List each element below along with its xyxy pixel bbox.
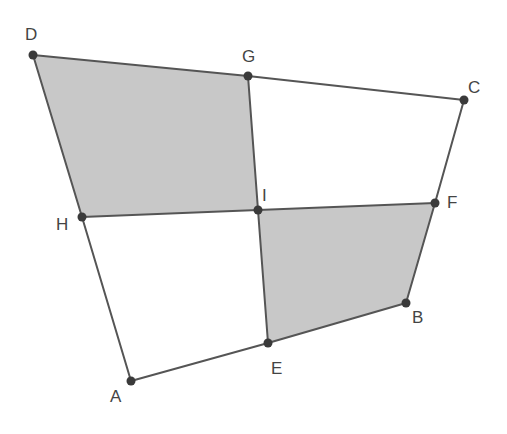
shaded-region-dgih — [33, 55, 258, 217]
label-b: B — [412, 308, 423, 327]
label-d: D — [25, 25, 37, 44]
geometry-diagram: ABCDEFGHI — [0, 0, 507, 434]
label-e: E — [271, 359, 282, 378]
label-f: F — [447, 193, 457, 212]
point-a — [127, 377, 136, 386]
segment-cg — [248, 76, 464, 100]
segment-ae — [131, 343, 268, 381]
point-g — [244, 72, 253, 81]
label-h: H — [56, 215, 68, 234]
segment-fc — [435, 100, 464, 203]
point-d — [29, 51, 38, 60]
label-c: C — [468, 78, 480, 97]
shaded-region-iebf — [258, 203, 435, 343]
segment-ha — [82, 217, 131, 381]
label-i: I — [262, 186, 267, 205]
point-h — [78, 213, 87, 222]
point-i — [254, 206, 263, 215]
label-a: A — [110, 387, 122, 406]
point-e — [264, 339, 273, 348]
label-g: G — [242, 47, 255, 66]
shaded-regions — [33, 55, 435, 343]
point-b — [402, 299, 411, 308]
point-f — [431, 199, 440, 208]
